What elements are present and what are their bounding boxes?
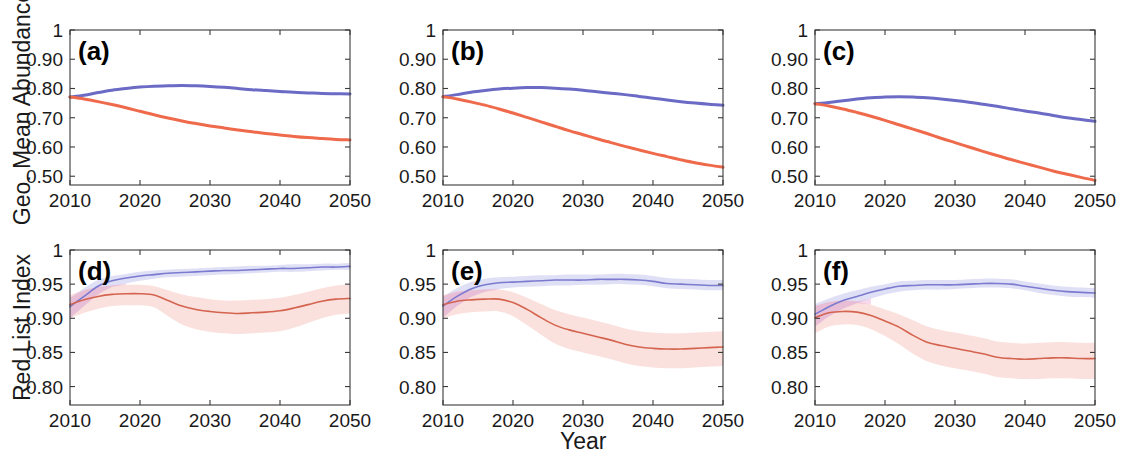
- y-tick-label: 0.90: [771, 49, 808, 70]
- panel-tag-d: (d): [78, 256, 111, 286]
- x-tick-label: 2020: [492, 410, 534, 431]
- y-tick-label: 0.85: [399, 342, 436, 363]
- x-tick-label: 2010: [422, 190, 464, 211]
- x-tick-label: 2030: [189, 190, 231, 211]
- y-tick-label: 0.90: [399, 308, 436, 329]
- panel-tag-a: (a): [78, 36, 110, 66]
- y-tick-label: 0.95: [399, 274, 436, 295]
- x-tick-label: 2050: [1074, 410, 1116, 431]
- x-tick-label: 2030: [934, 190, 976, 211]
- y-tick-label: 1: [797, 240, 808, 261]
- x-tick-label: 2010: [794, 190, 836, 211]
- panel-a: 201020202030204020500.500.600.700.800.90…: [26, 20, 371, 211]
- plots-svg: 201020202030204020500.500.600.700.800.90…: [0, 0, 1126, 458]
- y-axis-label-bottom: Red List Index: [9, 254, 36, 401]
- x-tick-label: 2010: [794, 410, 836, 431]
- x-tick-label: 2020: [119, 410, 161, 431]
- panel-f: 201020202030204020500.800.850.900.951(f): [771, 240, 1116, 431]
- x-tick-label: 2030: [934, 410, 976, 431]
- y-tick-label: 0.80: [399, 377, 436, 398]
- y-tick-label: 0.80: [399, 78, 436, 99]
- y-tick-label: 0.60: [771, 137, 808, 158]
- y-tick-label: 1: [52, 240, 63, 261]
- x-tick-label: 2040: [259, 190, 301, 211]
- y-tick-label: 0.95: [771, 274, 808, 295]
- y-tick-label: 1: [425, 20, 436, 41]
- x-tick-label: 2040: [632, 410, 674, 431]
- panel-tag-b: (b): [451, 36, 484, 66]
- x-tick-label: 2040: [1004, 190, 1046, 211]
- x-tick-label: 2020: [864, 190, 906, 211]
- y-tick-label: 1: [52, 20, 63, 41]
- panel-tag-f: (f): [823, 256, 849, 286]
- y-tick-label: 0.80: [771, 78, 808, 99]
- x-axis-label: Year: [560, 428, 606, 455]
- y-tick-label: 0.90: [399, 49, 436, 70]
- y-tick-label: 0.70: [399, 108, 436, 129]
- y-tick-label: 0.70: [771, 108, 808, 129]
- panel-c: 201020202030204020500.500.600.700.800.90…: [771, 20, 1116, 211]
- y-tick-label: 1: [425, 240, 436, 261]
- panel-b: 201020202030204020500.500.600.700.800.90…: [399, 20, 744, 211]
- multi-panel-figure: Geo. Mean Abundance Red List Index Year …: [0, 0, 1126, 458]
- panel-tag-e: (e): [451, 256, 483, 286]
- panel-e: 201020202030204020500.800.850.900.951(e): [399, 240, 744, 431]
- panel-d: 201020202030204020500.800.850.900.951(d): [26, 240, 371, 431]
- x-tick-label: 2040: [632, 190, 674, 211]
- y-tick-label: 0.80: [771, 377, 808, 398]
- y-tick-label: 0.50: [771, 166, 808, 187]
- x-tick-label: 2020: [119, 190, 161, 211]
- x-tick-label: 2050: [702, 190, 744, 211]
- x-tick-label: 2050: [1074, 190, 1116, 211]
- x-tick-label: 2010: [49, 190, 91, 211]
- x-tick-label: 2050: [702, 410, 744, 431]
- y-tick-label: 0.85: [771, 342, 808, 363]
- x-tick-label: 2050: [329, 190, 371, 211]
- y-axis-label-top: Geo. Mean Abundance: [9, 0, 36, 225]
- x-tick-label: 2020: [864, 410, 906, 431]
- x-tick-label: 2040: [259, 410, 301, 431]
- x-tick-label: 2010: [49, 410, 91, 431]
- x-tick-label: 2020: [492, 190, 534, 211]
- x-tick-label: 2040: [1004, 410, 1046, 431]
- y-tick-label: 0.60: [399, 137, 436, 158]
- x-tick-label: 2050: [329, 410, 371, 431]
- x-tick-label: 2030: [562, 190, 604, 211]
- x-tick-label: 2030: [189, 410, 231, 431]
- y-tick-label: 0.90: [771, 308, 808, 329]
- y-tick-label: 0.50: [399, 166, 436, 187]
- y-tick-label: 1: [797, 20, 808, 41]
- x-tick-label: 2010: [422, 410, 464, 431]
- panel-tag-c: (c): [823, 36, 855, 66]
